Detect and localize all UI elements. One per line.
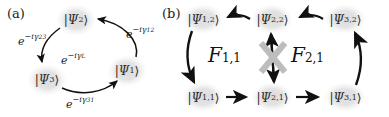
ket-symbol-psi11: Ψ (192, 92, 203, 104)
ket-close-psi11: ⟩ (215, 92, 220, 104)
cycle-subscript-F21: 2,1 (305, 51, 324, 65)
ket-symbol-psi12: Ψ (192, 14, 203, 26)
node-label-psi22: |Ψ2,2⟩ (253, 12, 292, 27)
edge-exp-31: −iγ (73, 95, 87, 104)
ket-close-psi32: ⟩ (357, 14, 362, 26)
ket-symbol-psi3: Ψ (39, 74, 50, 86)
cycle-letter-F21: F (291, 43, 305, 67)
edge-exp-sub-23: 23 (39, 33, 47, 40)
edge-exp-12: −iγ (133, 25, 147, 34)
node-label-psi12: |Ψ1,2⟩ (184, 12, 223, 27)
node-label-psi31: |Ψ3,1⟩ (326, 90, 365, 105)
cycle-label-F21: F2,1 (291, 45, 324, 65)
ket-subscript-psi22: 2,2 (271, 16, 284, 24)
arrow-psi12-to-psi11 (187, 31, 194, 82)
ket-symbol-psi1: Ψ (119, 65, 130, 77)
edge-exp-23: −iγ (25, 32, 39, 41)
ket-subscript-psi31: 3,1 (344, 94, 357, 102)
ket-symbol-psi2: Ψ (68, 14, 79, 26)
ket-symbol-psi32: Ψ (334, 14, 345, 26)
ket-subscript-psi21: 2,1 (271, 94, 284, 102)
ket-close-psi12: ⟩ (215, 14, 220, 26)
node-label-psi2: |Ψ2⟩ (60, 12, 92, 28)
ket-symbol-psi22: Ψ (261, 14, 272, 26)
edge-exp-sub-loop: L (82, 52, 86, 59)
cycle-letter-F11: F (208, 43, 222, 67)
edge-label-gamma31: e−iγ31 (66, 95, 94, 111)
node-label-psi3: |Ψ3⟩ (31, 72, 63, 88)
node-label-psi21: |Ψ2,1⟩ (253, 90, 292, 105)
edge-label-gamma12: e−iγ12 (126, 25, 154, 41)
arrow-psi3-to-psi1 (62, 81, 117, 93)
arrow-psi31-to-psi32 (355, 33, 361, 85)
ket-close-psi22: ⟩ (284, 14, 289, 26)
ket-symbol-psi21: Ψ (261, 92, 272, 104)
ket-subscript-psi32: 3,2 (344, 16, 357, 24)
cycle-subscript-F11: 1,1 (222, 51, 241, 65)
arrow-psi22-to-psi12 (228, 15, 250, 19)
figure-container: (a) (b) (0, 0, 389, 117)
node-label-psi1: |Ψ1⟩ (111, 63, 143, 79)
cycle-label-F11: F1,1 (208, 45, 241, 65)
edge-exp-sub-12: 12 (147, 26, 155, 33)
ket-close-psi2: ⟩ (83, 14, 88, 26)
edge-label-gamma23: e−iγ23 (18, 32, 46, 48)
edge-exp-sub-31: 31 (87, 96, 95, 103)
edge-label-gamma-loop: e−iγL (61, 51, 86, 67)
edge-exp-loop: −iγ (68, 51, 82, 60)
ket-subscript-psi11: 1,1 (202, 94, 215, 102)
node-label-psi32: |Ψ3,2⟩ (326, 12, 365, 27)
ket-subscript-psi12: 1,2 (202, 16, 215, 24)
node-label-psi11: |Ψ1,1⟩ (184, 90, 223, 105)
ket-close-psi1: ⟩ (134, 65, 139, 77)
arrow-psi32-to-psi22 (300, 15, 323, 19)
ket-close-psi3: ⟩ (54, 74, 59, 86)
ket-close-psi31: ⟩ (357, 92, 362, 104)
ket-symbol-psi31: Ψ (334, 92, 345, 104)
ket-close-psi21: ⟩ (284, 92, 289, 104)
